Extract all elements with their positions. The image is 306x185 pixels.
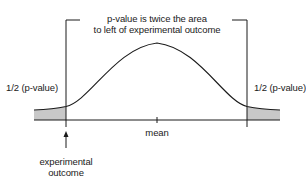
title-line-2: to left of experimental outcome bbox=[86, 24, 228, 35]
title-line-1: p-value is twice the area bbox=[86, 13, 228, 24]
right-tail-label: 1/2 (p-value) bbox=[254, 82, 306, 93]
experimental-outcome-label: experimental outcome bbox=[36, 156, 96, 178]
mean-label: mean bbox=[137, 127, 177, 138]
right-bracket bbox=[232, 20, 247, 127]
outcome-line-1: experimental bbox=[36, 156, 96, 167]
left-tail-label: 1/2 (p-value) bbox=[6, 82, 58, 93]
diagram-title: p-value is twice the area to left of exp… bbox=[86, 13, 228, 35]
bell-curve bbox=[34, 43, 280, 110]
left-bracket bbox=[66, 20, 80, 127]
outcome-line-2: outcome bbox=[36, 167, 96, 178]
up-arrow-icon bbox=[64, 131, 69, 148]
